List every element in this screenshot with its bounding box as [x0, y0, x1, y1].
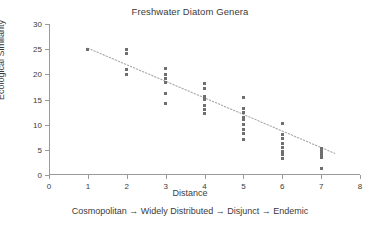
data-point [164, 81, 167, 84]
y-tick-label: 5 [38, 145, 42, 154]
data-point [281, 137, 284, 140]
data-point [203, 104, 206, 107]
data-point [164, 102, 167, 105]
data-point [281, 153, 284, 156]
chart-figure: Freshwater Diatom Genera Ecological Simi… [0, 0, 380, 231]
data-point [242, 96, 245, 99]
data-point [320, 156, 323, 159]
data-point [242, 138, 245, 141]
data-point [281, 157, 284, 160]
y-tick-label: 15 [33, 95, 42, 104]
y-tick-label: 20 [33, 70, 42, 79]
y-tick-mark [45, 150, 49, 151]
x-tick-mark [49, 175, 50, 179]
x-tick-mark [88, 175, 89, 179]
data-point [242, 123, 245, 126]
data-point [164, 67, 167, 70]
data-point [164, 77, 167, 80]
x-tick-mark [360, 175, 361, 179]
y-tick-label: 0 [38, 171, 42, 180]
data-point [203, 87, 206, 90]
x-tick-mark [243, 175, 244, 179]
y-tick-mark [45, 100, 49, 101]
data-point [203, 98, 206, 101]
data-point [242, 128, 245, 131]
data-point [242, 118, 245, 121]
x-tick-mark [166, 175, 167, 179]
x-tick-mark [127, 175, 128, 179]
data-point [281, 133, 284, 136]
y-tick-label: 25 [33, 45, 42, 54]
data-point [281, 142, 284, 145]
data-point [242, 107, 245, 110]
data-point [203, 82, 206, 85]
x-tick-mark [205, 175, 206, 179]
y-tick-mark [45, 74, 49, 75]
data-point [125, 48, 128, 51]
data-point [281, 146, 284, 149]
x-tick-mark [321, 175, 322, 179]
y-tick-mark [45, 49, 49, 50]
x-tick-mark [282, 175, 283, 179]
y-tick-mark [45, 125, 49, 126]
data-point [86, 48, 89, 51]
y-tick-label: 30 [33, 20, 42, 29]
y-tick-mark [45, 24, 49, 25]
data-point [164, 92, 167, 95]
y-tick-label: 10 [33, 120, 42, 129]
data-point [242, 111, 245, 114]
chart-title: Freshwater Diatom Genera [0, 6, 380, 17]
data-point [125, 52, 128, 55]
data-point [203, 112, 206, 115]
data-point [203, 108, 206, 111]
data-point [242, 132, 245, 135]
data-point [164, 73, 167, 76]
plot-area [49, 24, 360, 175]
data-point [281, 122, 284, 125]
data-point [125, 68, 128, 71]
data-point [125, 73, 128, 76]
y-axis-title: Ecological Similarity [0, 20, 6, 100]
data-point [320, 167, 323, 170]
x-axis-title: Distance [0, 188, 380, 198]
chart-caption: Cosmopolitan → Widely Distributed → Disj… [0, 206, 380, 216]
